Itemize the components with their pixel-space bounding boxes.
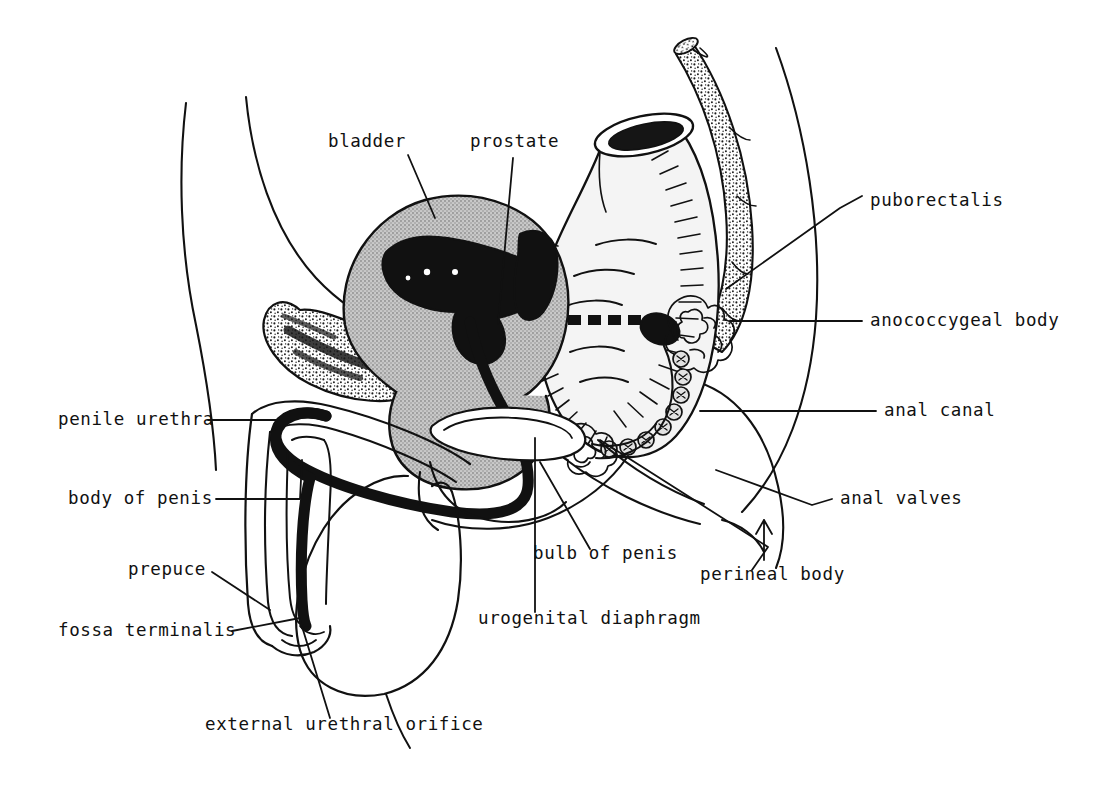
leader-anal-valves (716, 470, 832, 505)
anatomy-figure: bladder prostate puborectalis anococcyge… (0, 0, 1102, 790)
label-urogenital-diaphragm: urogenital diaphragm (478, 610, 701, 628)
label-anal-valves: anal valves (840, 490, 963, 508)
anatomy-drawing (0, 0, 1102, 790)
label-prostate: prostate (470, 133, 559, 151)
leader-prepuce (212, 572, 270, 610)
label-puborectalis: puborectalis (870, 192, 1004, 210)
label-bladder: bladder (328, 133, 406, 151)
scrotum (296, 476, 461, 748)
label-anococcygeal-body: anococcygeal body (870, 312, 1059, 330)
label-external-urethral-orifice: external urethral orifice (205, 716, 483, 734)
label-fossa-terminalis: fossa terminalis (58, 622, 236, 640)
label-body-of-penis: body of penis (68, 490, 213, 508)
leader-bulb-of-penis (540, 462, 590, 549)
label-perineal-body: perineal body (700, 566, 845, 584)
label-anal-canal: anal canal (884, 402, 995, 420)
label-prepuce: prepuce (128, 561, 206, 579)
label-bulb-of-penis: bulb of penis (533, 545, 678, 563)
label-penile-urethra: penile urethra (58, 411, 214, 429)
leader-fossa-terminalis (232, 618, 300, 631)
